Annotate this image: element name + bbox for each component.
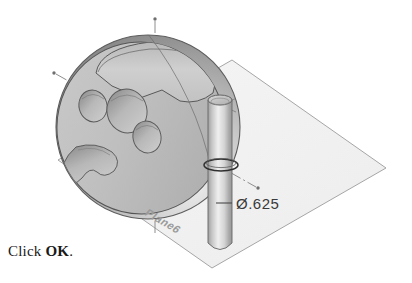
cad-viewport[interactable]: Plane6 Ø.625 bbox=[0, 0, 412, 283]
dimension-value-text[interactable]: Ø.625 bbox=[236, 195, 279, 212]
caption-prefix: Click bbox=[8, 243, 45, 259]
diagonal-axis-end-dot bbox=[256, 186, 259, 189]
diagonal-axis-start-dot bbox=[52, 71, 55, 74]
vertical-axis-endpoint-dot bbox=[153, 17, 156, 20]
instruction-caption: Click OK. bbox=[8, 243, 73, 260]
illustration-page: Plane6 Ø.625 Click OK. bbox=[0, 0, 412, 283]
caption-emphasis: OK bbox=[45, 243, 69, 259]
cylinder-body[interactable] bbox=[208, 100, 232, 250]
caption-suffix: . bbox=[69, 243, 73, 259]
